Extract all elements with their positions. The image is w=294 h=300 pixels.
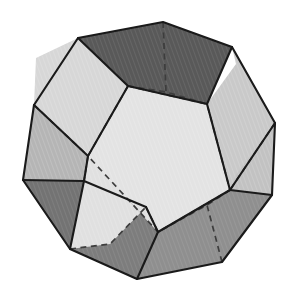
edge-left-lower-seam <box>23 180 84 181</box>
figure-root: Dodecahedron Shaded 3D line drawing of a… <box>0 0 294 300</box>
dodecahedron-figure: Dodecahedron Shaded 3D line drawing of a… <box>0 0 294 300</box>
